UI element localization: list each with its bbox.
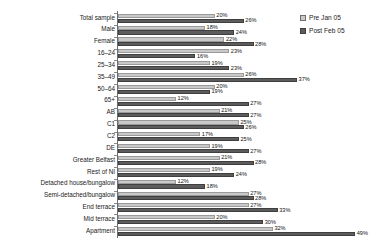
- value-label-post: 33%: [279, 208, 290, 214]
- category-label: DE: [0, 145, 115, 151]
- category-label: 35–49: [0, 74, 115, 80]
- axis-tick: [114, 120, 117, 121]
- bar-pre-jan-05: [118, 85, 215, 89]
- value-label-post: 27%: [250, 101, 261, 107]
- bar-post-feb-05: [118, 208, 278, 212]
- bar-pre-jan-05: [118, 61, 210, 65]
- bar-pre-jan-05: [118, 109, 220, 113]
- bar-pre-jan-05: [118, 26, 205, 30]
- bar-post-feb-05: [118, 90, 210, 94]
- axis-tick: [114, 108, 117, 109]
- bar-post-feb-05: [118, 102, 249, 106]
- axis-tick: [114, 132, 117, 133]
- value-label-post: 24%: [236, 30, 247, 36]
- bar-post-feb-05: [118, 78, 297, 82]
- chart-legend: Pre Jan 05 Post Feb 05: [300, 14, 345, 40]
- bar-row: Apartment32%49%: [0, 226, 388, 238]
- value-label-post: 37%: [299, 77, 310, 83]
- axis-tick: [114, 72, 117, 73]
- bar-pre-jan-05: [118, 156, 220, 160]
- axis-tick: [114, 191, 117, 192]
- bar-row: C125%26%: [0, 120, 388, 132]
- bar-post-feb-05: [118, 184, 205, 188]
- bar-pre-jan-05: [118, 132, 200, 136]
- axis-tick: [114, 84, 117, 85]
- value-label-post: 25%: [241, 137, 252, 143]
- value-label-post: 28%: [255, 42, 266, 48]
- bar-row: C217%25%: [0, 132, 388, 144]
- bar-pre-jan-05: [118, 14, 215, 18]
- legend-swatch-post-icon: [300, 28, 306, 34]
- bar-pre-jan-05: [118, 120, 239, 124]
- bar-post-feb-05: [118, 196, 254, 200]
- axis-tick: [114, 96, 117, 97]
- bar-row: DE19%27%: [0, 143, 388, 155]
- bar-chart: Total sample20%26%Male18%24%Female22%28%…: [0, 0, 388, 244]
- bar-row: Mid terrace20%30%: [0, 214, 388, 226]
- category-label: C1: [0, 121, 115, 127]
- legend-item-post: Post Feb 05: [300, 27, 345, 35]
- bar-pre-jan-05: [118, 215, 215, 219]
- bar-pre-jan-05: [118, 144, 210, 148]
- value-label-pre: 23%: [231, 49, 242, 55]
- bar-post-feb-05: [118, 66, 229, 70]
- legend-label-pre: Pre Jan 05: [309, 15, 341, 22]
- category-label: Rest of NI: [0, 169, 115, 175]
- bar-pre-jan-05: [118, 180, 176, 184]
- axis-tick: [114, 155, 117, 156]
- category-label: Semi-detached/bungalow: [0, 192, 115, 198]
- bar-row: 35–4926%37%: [0, 72, 388, 84]
- bar-pre-jan-05: [118, 192, 249, 196]
- bar-post-feb-05: [118, 54, 195, 58]
- bar-pre-jan-05: [118, 227, 273, 231]
- category-label: Detached house/bungalow: [0, 180, 115, 186]
- legend-swatch-pre-icon: [300, 15, 306, 21]
- bar-post-feb-05: [118, 30, 234, 34]
- bar-post-feb-05: [118, 19, 244, 23]
- category-label: 65+: [0, 97, 115, 103]
- bar-pre-jan-05: [118, 73, 244, 77]
- bar-post-feb-05: [118, 173, 234, 177]
- bar-post-feb-05: [118, 137, 239, 141]
- bar-row: Detached house/bungalow12%18%: [0, 179, 388, 191]
- bar-row: 50–6420%19%: [0, 84, 388, 96]
- axis-tick: [114, 167, 117, 168]
- category-label: Apartment: [0, 228, 115, 234]
- category-label: Total sample: [0, 15, 115, 21]
- axis-tick: [114, 37, 117, 38]
- value-label-post: 24%: [236, 172, 247, 178]
- category-label: Greater Belfast: [0, 157, 115, 163]
- value-label-post: 16%: [197, 54, 208, 60]
- value-label-post: 28%: [255, 160, 266, 166]
- value-label-post: 49%: [357, 231, 368, 237]
- bar-post-feb-05: [118, 149, 249, 153]
- bar-post-feb-05: [118, 232, 355, 236]
- bar-row: Semi-detached/bungalow27%28%: [0, 191, 388, 203]
- legend-item-pre: Pre Jan 05: [300, 14, 345, 22]
- bar-post-feb-05: [118, 42, 254, 46]
- category-label: Mid terrace: [0, 216, 115, 222]
- category-label: C2: [0, 133, 115, 139]
- bar-row: Greater Belfast21%28%: [0, 155, 388, 167]
- value-label-post: 23%: [231, 66, 242, 72]
- axis-tick: [114, 179, 117, 180]
- bar-post-feb-05: [118, 161, 254, 165]
- bar-pre-jan-05: [118, 37, 224, 41]
- category-label: Female: [0, 38, 115, 44]
- axis-tick: [114, 214, 117, 215]
- category-label: Male: [0, 26, 115, 32]
- bar-pre-jan-05: [118, 97, 176, 101]
- axis-tick: [114, 25, 117, 26]
- bar-row: AB21%27%: [0, 108, 388, 120]
- bar-pre-jan-05: [118, 49, 229, 53]
- value-label-post: 18%: [207, 184, 218, 190]
- value-label-post: 19%: [211, 89, 222, 95]
- category-label: 16–24: [0, 50, 115, 56]
- axis-tick: [114, 143, 117, 144]
- axis-tick: [114, 226, 117, 227]
- axis-tick: [114, 203, 117, 204]
- bar-row: End terrace27%33%: [0, 203, 388, 215]
- category-label: 50–64: [0, 86, 115, 92]
- axis-tick: [114, 60, 117, 61]
- bar-row: 16–2423%16%: [0, 49, 388, 61]
